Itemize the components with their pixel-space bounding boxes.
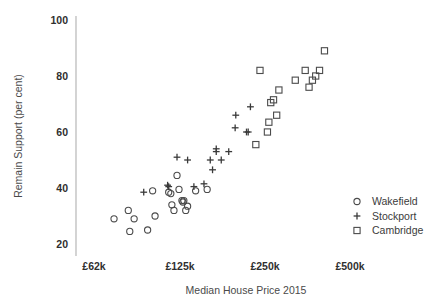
x-tick-label: £125k bbox=[165, 260, 194, 272]
data-point-plus bbox=[209, 166, 216, 173]
data-point-circle bbox=[176, 186, 182, 192]
legend-marker-plus bbox=[354, 213, 361, 220]
legend-marker-square bbox=[354, 227, 360, 233]
data-point-square bbox=[292, 77, 298, 83]
y-tick-label: 80 bbox=[56, 70, 68, 82]
x-tick-labels: £62k£125k£250k£500k bbox=[82, 260, 364, 272]
legend-marker-circle bbox=[354, 198, 360, 204]
y-tick-label: 40 bbox=[56, 182, 68, 194]
plot-area: 10080604020 £62k£125k£250k£500k Wakefiel… bbox=[0, 0, 441, 307]
scatter-chart: 10080604020 £62k£125k£250k£500k Wakefiel… bbox=[0, 0, 441, 307]
legend-item-cambridge[interactable]: Cambridge bbox=[354, 224, 424, 236]
y-tick-label: 20 bbox=[56, 238, 68, 250]
data-point-circle bbox=[174, 172, 180, 178]
data-point-circle bbox=[171, 207, 177, 213]
data-point-square bbox=[321, 48, 327, 54]
data-point-circle bbox=[152, 213, 158, 219]
data-point-plus bbox=[218, 157, 225, 164]
series-cambridge bbox=[253, 48, 328, 148]
data-point-circle bbox=[125, 207, 131, 213]
data-point-circle bbox=[111, 216, 117, 222]
data-point-plus bbox=[232, 112, 239, 119]
data-point-circle bbox=[131, 216, 137, 222]
x-tick-label: £250k bbox=[250, 260, 279, 272]
data-point-square bbox=[302, 67, 308, 73]
data-point-plus bbox=[207, 157, 214, 164]
data-point-circle bbox=[127, 228, 133, 234]
data-point-plus bbox=[225, 148, 232, 155]
data-point-plus bbox=[232, 124, 239, 131]
series-stockport bbox=[140, 103, 254, 195]
data-point-square bbox=[276, 87, 282, 93]
legend-label: Stockport bbox=[372, 210, 416, 222]
data-points bbox=[111, 48, 328, 235]
y-tick-label: 100 bbox=[50, 14, 68, 26]
y-tick-label: 60 bbox=[56, 126, 68, 138]
x-tick-label: £62k bbox=[82, 260, 106, 272]
data-point-plus bbox=[247, 103, 254, 110]
data-point-plus bbox=[164, 182, 171, 189]
data-point-plus bbox=[165, 183, 172, 190]
data-point-plus bbox=[190, 183, 197, 190]
data-point-plus bbox=[140, 189, 147, 196]
legend-label: Cambridge bbox=[372, 224, 424, 236]
data-point-circle bbox=[145, 227, 151, 233]
data-point-square bbox=[274, 112, 280, 118]
legend-label: Wakefield bbox=[372, 195, 418, 207]
series-wakefield bbox=[111, 172, 210, 234]
data-point-square bbox=[253, 142, 259, 148]
data-point-plus bbox=[174, 154, 181, 161]
data-point-square bbox=[266, 119, 272, 125]
data-point-square bbox=[264, 129, 270, 135]
x-axis-title: Median House Price 2015 bbox=[186, 284, 307, 296]
chart-legend: WakefieldStockportCambridge bbox=[354, 195, 424, 236]
data-point-square bbox=[257, 67, 263, 73]
data-point-plus bbox=[184, 157, 191, 164]
legend-item-stockport[interactable]: Stockport bbox=[354, 210, 417, 222]
y-tick-labels: 10080604020 bbox=[50, 14, 68, 250]
y-axis-title: Remain Support (per cent) bbox=[12, 74, 24, 198]
data-point-circle bbox=[204, 186, 210, 192]
x-tick-label: £500k bbox=[335, 260, 364, 272]
legend-item-wakefield[interactable]: Wakefield bbox=[354, 195, 418, 207]
data-point-plus bbox=[245, 129, 252, 136]
data-point-square bbox=[306, 84, 312, 90]
data-point-circle bbox=[150, 188, 156, 194]
